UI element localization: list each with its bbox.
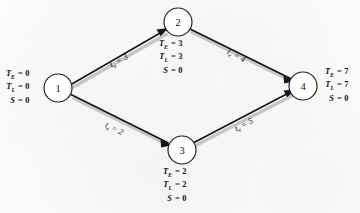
- node-3-s-symbol: S: [159, 193, 172, 204]
- edge-label-2-4: te=4: [225, 46, 248, 65]
- node-2-tl-row: TL=3: [155, 51, 184, 64]
- node-2-s-value: 0: [178, 65, 184, 76]
- edge-1-3: [71, 95, 173, 148]
- node-4-tl-symbol: TL: [321, 79, 334, 92]
- node-4[interactable]: 4: [289, 72, 317, 100]
- node-1-tl-symbol: TL: [2, 81, 15, 94]
- node-4-te-row: TE=7: [321, 66, 350, 79]
- node-1-s-symbol: S: [2, 95, 15, 106]
- node-4-te-symbol: TE: [321, 66, 334, 79]
- node-4-label: 4: [300, 81, 306, 92]
- edge-3-4-shadow: [196, 95, 295, 146]
- node-3-tl-value: 2: [182, 179, 188, 190]
- node-3-label: 3: [179, 145, 184, 156]
- node-3-te-equals: =: [172, 166, 182, 177]
- edge-3-4: [194, 89, 296, 145]
- node-1-te-equals: =: [15, 68, 25, 79]
- node-3[interactable]: 3: [168, 136, 196, 164]
- node-2-s-symbol: S: [155, 65, 168, 76]
- diagram-canvas: te=3 te=4 te=2 te=5 1 2: [0, 0, 360, 213]
- node-2-te-row: TE=3: [155, 38, 184, 51]
- node-1-stats: TE=0 TL=0 S=0: [2, 68, 31, 106]
- node-3-te-row: TE=2: [159, 166, 188, 179]
- node-1-s-value: 0: [25, 95, 31, 106]
- node-1-label: 1: [55, 83, 60, 94]
- node-3-te-value: 2: [182, 166, 188, 177]
- node-4-te-value: 7: [344, 66, 350, 77]
- edge-1-3-duration-value: 2: [117, 126, 126, 137]
- node-3-s-value: 0: [182, 193, 188, 204]
- node-2-label: 2: [175, 17, 180, 28]
- edge-3-4-line: [194, 92, 292, 143]
- node-2-tl-value: 3: [178, 51, 184, 62]
- node-3-s-row: S=0: [159, 193, 188, 204]
- node-4-tl-row: TL=7: [321, 79, 350, 92]
- node-3-s-equals: =: [172, 193, 182, 204]
- node-2-te-value: 3: [178, 38, 184, 49]
- node-1-te-value: 0: [25, 68, 31, 79]
- node-2-stats: TE=3 TL=3 S=0: [155, 38, 184, 76]
- node-1[interactable]: 1: [44, 74, 72, 102]
- node-4-stats: TE=7 TL=7 S=0: [321, 66, 350, 104]
- node-3-tl-symbol: TL: [159, 179, 172, 192]
- edge-1-3-shadow: [73, 98, 172, 147]
- node-4-tl-value: 7: [344, 79, 350, 90]
- node-2[interactable]: 2: [164, 8, 192, 36]
- node-1-s-row: S=0: [2, 95, 31, 106]
- node-4-s-row: S=0: [321, 93, 350, 104]
- node-1-te-row: TE=0: [2, 68, 31, 81]
- node-3-tl-row: TL=2: [159, 179, 188, 192]
- svg-text:te=4: te=4: [225, 46, 248, 65]
- node-2-te-equals: =: [168, 38, 178, 49]
- node-2-s-equals: =: [168, 65, 178, 76]
- node-3-tl-equals: =: [172, 179, 182, 190]
- node-3-stats: TE=2 TL=2 S=0: [159, 166, 188, 204]
- node-1-te-symbol: TE: [2, 68, 15, 81]
- node-4-te-equals: =: [334, 66, 344, 77]
- node-1-tl-value: 0: [25, 81, 31, 92]
- node-1-tl-equals: =: [15, 81, 25, 92]
- node-4-tl-equals: =: [334, 79, 344, 90]
- node-4-s-equals: =: [334, 93, 344, 104]
- node-3-te-symbol: TE: [159, 166, 172, 179]
- node-2-tl-equals: =: [168, 51, 178, 62]
- node-2-tl-symbol: TL: [155, 51, 168, 64]
- node-4-s-value: 0: [344, 93, 350, 104]
- node-1-s-equals: =: [15, 95, 25, 106]
- node-4-s-symbol: S: [321, 93, 334, 104]
- node-2-te-symbol: TE: [155, 38, 168, 51]
- node-1-tl-row: TL=0: [2, 81, 31, 94]
- node-2-s-row: S=0: [155, 65, 184, 76]
